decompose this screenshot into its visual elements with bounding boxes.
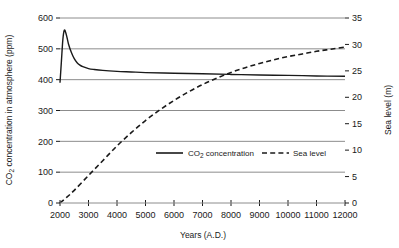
right-axis-tick-label: 30 [352,40,362,50]
legend-label-sea-level: Sea level [293,149,326,158]
x-axis-tick-label: 5000 [135,210,155,220]
x-axis-tick-label: 2000 [50,210,70,220]
left-axis-tick-label: 0 [48,198,53,208]
right-axis-tick-label: 20 [352,92,362,102]
co2-sea-level-chart: 0100200300400500600 05101520253035 20003… [0,0,399,248]
x-axis-tick-label: 10000 [275,210,300,220]
right-axis-tick-label: 25 [352,66,362,76]
left-axis-tick-label: 200 [38,137,53,147]
right-axis-tick-label: 35 [352,13,362,23]
x-axis-title: Years (A.D.) [180,230,226,240]
right-axis-tick-label: 5 [352,172,357,182]
left-axis-tick-label: 500 [38,44,53,54]
left-axis-tick-label: 300 [38,106,53,116]
chart-figure: 0100200300400500600 05101520253035 20003… [0,0,399,248]
left-axis-tick-label: 100 [38,167,53,177]
x-axis-tick-label: 8000 [221,210,241,220]
y2-axis-title: Sea level (m) [383,85,393,135]
legend-label-co2-concentration: CO2 concentration [188,149,254,159]
x-axis-tick-label: 7000 [192,210,212,220]
left-axis-tick-label: 600 [38,13,53,23]
x-axis-tick-label: 4000 [107,210,127,220]
x-axis-tick-label: 3000 [78,210,98,220]
left-axis-tick-label: 400 [38,75,53,85]
x-axis-tick-label: 9000 [249,210,269,220]
y-axis-title: CO2 concentration in atmosphere (ppm) [4,35,15,186]
x-axis-tick-label: 6000 [164,210,184,220]
x-axis-tick-label: 11000 [304,210,328,220]
x-axis-tick-label: 12000 [332,210,357,220]
right-axis-tick-label: 10 [352,145,362,155]
right-axis-tick-label: 0 [352,198,357,208]
right-axis-tick-label: 15 [352,119,362,129]
